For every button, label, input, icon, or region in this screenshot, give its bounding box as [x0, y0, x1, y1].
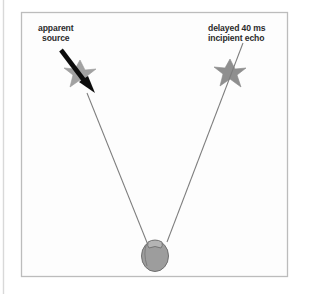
- apparent-source-label-line-2: source: [38, 33, 74, 43]
- figure-root: apparent source delayed 40 ms incipient …: [0, 0, 311, 294]
- delayed-echo-label-line-2: incipient echo: [208, 33, 265, 43]
- apparent-source-label: apparent source: [38, 23, 74, 43]
- listener-nose: [148, 240, 163, 248]
- listener-head: [142, 240, 169, 272]
- apparent-source-label-line-1: apparent: [38, 23, 74, 33]
- delayed-echo-label-line-1: delayed 40 ms: [208, 23, 265, 33]
- delayed-echo-label: delayed 40 ms incipient echo: [208, 23, 265, 43]
- diagram-canvas: [0, 0, 311, 294]
